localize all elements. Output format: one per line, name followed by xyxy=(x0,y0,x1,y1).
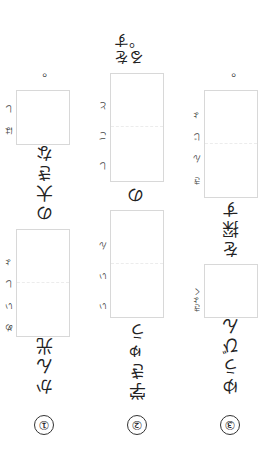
item-3-end-text: 。 xyxy=(224,71,236,88)
item-3-box-2-furigana: きんじょ xyxy=(194,97,202,185)
item-3-middle-text: を探す xyxy=(223,198,240,258)
item-1-answer-box-2[interactable] xyxy=(16,90,70,145)
item-3-answer-box-2[interactable] xyxy=(204,90,258,198)
item-2-end-text: をする。 xyxy=(115,0,145,65)
item-3-lead-text: ゆうびん xyxy=(223,315,240,395)
item-2-lead-text: 学きゅう xyxy=(130,320,147,400)
item-1-end-text: 。 xyxy=(35,71,47,88)
item-1-box-2-furigana: はし xyxy=(6,91,14,135)
item-1-middle-text: の大きな xyxy=(37,142,54,222)
item-number-1: ① xyxy=(34,415,54,435)
item-1-answer-box-1[interactable] xyxy=(16,229,70,337)
item-2-box-1-furigana: いいん xyxy=(100,220,108,310)
item-2-answer-box-2[interactable] xyxy=(110,73,164,182)
item-3-answer-box-1[interactable] xyxy=(204,264,258,318)
item-1-box-1-furigana: めいしょ xyxy=(6,244,14,332)
item-2-box-2-furigana: しごと xyxy=(100,80,108,170)
item-3-box-1-furigana: きょく xyxy=(194,288,202,312)
item-2-answer-box-1[interactable] xyxy=(110,210,164,318)
item-number-2: ② xyxy=(127,415,147,435)
kanji-worksheet: ③ ゆうびん きょく を探す きんじょ 。 ② 学きゅう いいん の しごと を… xyxy=(0,0,272,450)
item-1-lead-text: かん光 xyxy=(37,335,54,395)
item-number-3: ③ xyxy=(220,415,240,435)
item-2-middle-text: の xyxy=(128,184,145,204)
